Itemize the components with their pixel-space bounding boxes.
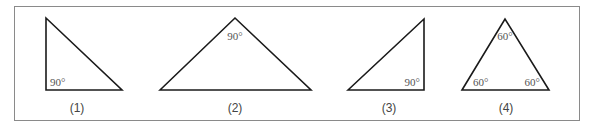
triangle-2-angle-label: 90° xyxy=(227,30,242,42)
triangle-1: 90° (1) xyxy=(46,18,122,115)
triangle-2-shape xyxy=(160,18,311,90)
triangle-2: 90° (2) xyxy=(160,18,311,115)
triangle-1-angle-label: 90° xyxy=(50,76,65,88)
triangle-3-angle-label: 90° xyxy=(405,76,420,88)
triangle-4-angle-top: 60° xyxy=(497,30,512,42)
triangle-4-caption: (4) xyxy=(499,101,514,115)
triangle-3: 90° (3) xyxy=(348,19,424,115)
triangle-4: 60° 60° 60° (4) xyxy=(462,19,549,115)
triangle-4-angle-left: 60° xyxy=(473,76,488,88)
triangle-1-caption: (1) xyxy=(70,101,85,115)
triangle-4-angle-right: 60° xyxy=(525,76,540,88)
triangles-diagram: 90° (1) 90° (2) 90° (3) 60° 60° 60° (4) xyxy=(0,0,594,131)
triangle-3-caption: (3) xyxy=(382,101,397,115)
triangle-2-caption: (2) xyxy=(228,101,243,115)
